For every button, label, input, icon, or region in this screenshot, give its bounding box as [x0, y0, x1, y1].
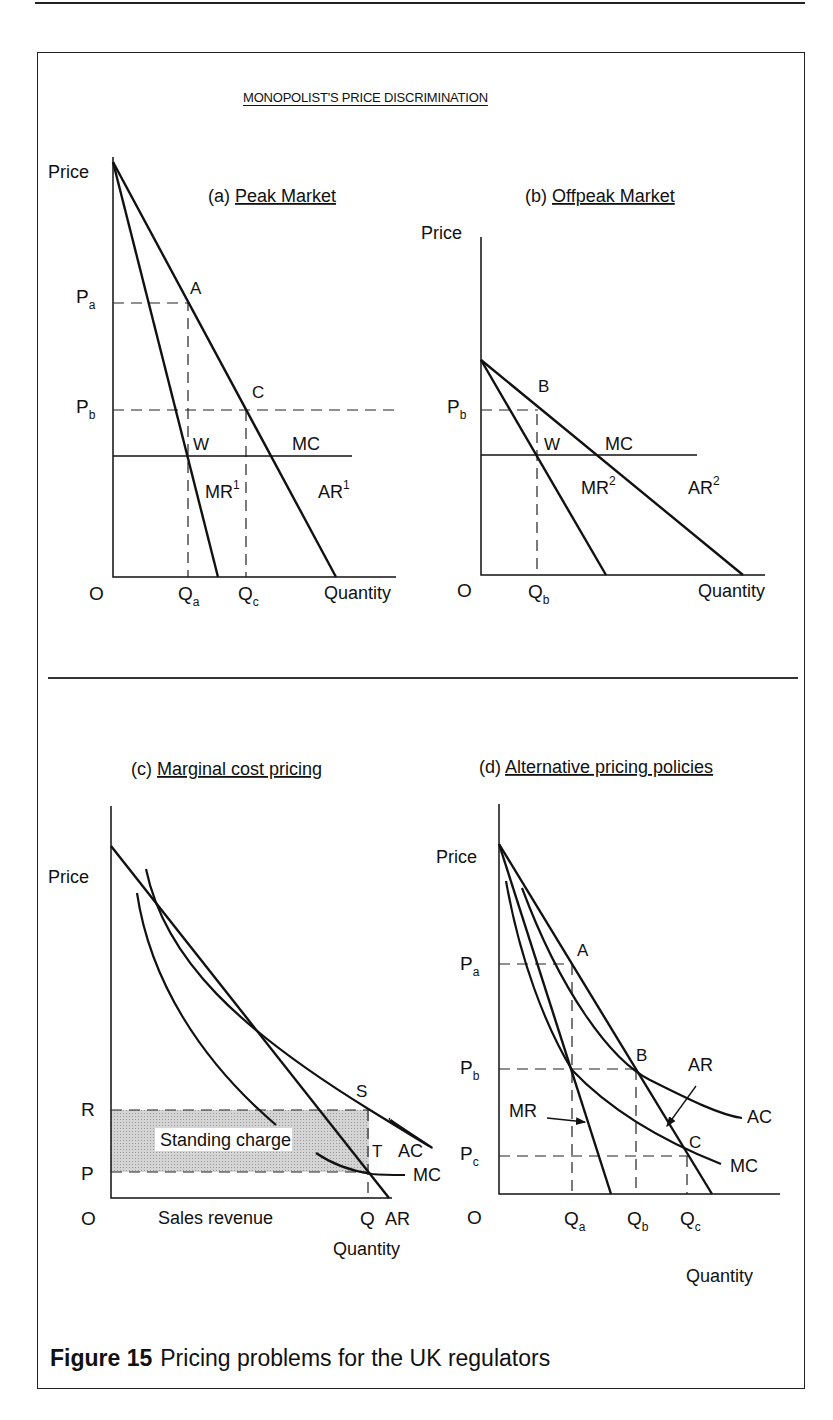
tick-label-sub: b — [460, 408, 467, 422]
curve-mr1 — [113, 162, 218, 577]
tick-label: Qb — [528, 581, 550, 607]
x-axis-label: Quantity — [324, 583, 391, 603]
point-label: A — [190, 279, 202, 298]
y-axis-label: Price — [436, 847, 477, 867]
tick-label: P — [81, 1163, 94, 1184]
series-label-mr2-sup: 2 — [609, 474, 616, 488]
charts-canvas: AR1MR1MCACWPaPbQaQc(a) Peak MarketPriceQ… — [0, 0, 833, 1420]
series-label-ac: AC — [747, 1107, 772, 1127]
tick-label: Qc — [680, 1208, 701, 1234]
panel-title-name: Marginal cost pricing — [157, 759, 322, 779]
series-label-mr1: MR1 — [205, 478, 240, 502]
dashed-guide — [113, 303, 188, 577]
panel-title-name: Offpeak Market — [552, 186, 675, 206]
axes — [113, 157, 396, 577]
area-label: Sales revenue — [158, 1208, 273, 1228]
panel-title: (d) Alternative pricing policies — [479, 757, 713, 777]
axes — [481, 237, 765, 575]
x-axis-label: Quantity — [333, 1239, 400, 1259]
panel-title-name: Alternative pricing policies — [505, 757, 713, 777]
x-axis-label: Quantity — [686, 1266, 753, 1286]
curve-ac — [146, 869, 432, 1148]
point-label: B — [538, 377, 549, 396]
figure-caption: Figure 15Pricing problems for the UK reg… — [50, 1345, 550, 1372]
origin-label: O — [89, 583, 104, 604]
chart-panel-d: ARMRACMCABCPaPbPcQaQbQc(d) Alternative p… — [436, 757, 780, 1286]
point-label: S — [356, 1082, 367, 1101]
tick-label: Pb — [76, 396, 96, 422]
chart-panel-b: AR2MR2MCBWPbQb(b) Offpeak MarketPriceQua… — [421, 186, 765, 607]
series-label-ar: AR — [385, 1209, 410, 1229]
point-label: T — [372, 1142, 382, 1161]
curve-mc — [506, 881, 721, 1164]
series-label-ar1: AR1 — [318, 478, 350, 502]
origin-label: O — [457, 580, 472, 601]
tick-label-sub: b — [642, 1220, 649, 1234]
series-label-mr2: MR2 — [581, 474, 616, 498]
tick-label-sub: a — [473, 965, 480, 979]
series-label-ar: AR — [688, 1055, 713, 1075]
tick-label-sub: b — [473, 1069, 480, 1083]
tick-label-sub: c — [473, 1155, 479, 1169]
chart-panel-c: ARACMCStanding chargeSales revenueSTRPQ(… — [48, 759, 441, 1259]
point-label: W — [193, 435, 209, 454]
series-label-mc: MC — [730, 1156, 758, 1176]
point-label: B — [636, 1046, 647, 1065]
tick-label-sub: a — [89, 298, 96, 312]
curve-ar1 — [113, 162, 336, 577]
tick-label: R — [81, 1099, 95, 1120]
series-label-ar2: AR2 — [688, 474, 720, 498]
tick-label: Qc — [238, 583, 259, 609]
caption-text: Pricing problems for the UK regulators — [160, 1345, 550, 1371]
tick-label-sub: a — [193, 595, 200, 609]
curve-ar — [499, 844, 712, 1194]
x-axis-label: Quantity — [698, 581, 765, 601]
y-axis-label: Price — [48, 867, 89, 887]
panel-title: (c) Marginal cost pricing — [131, 759, 322, 779]
point-label: C — [689, 1133, 701, 1152]
tick-label: Q — [360, 1208, 375, 1229]
tick-label: Qa — [178, 583, 200, 609]
tick-label: Pc — [460, 1143, 479, 1169]
series-label-mc: MC — [292, 434, 320, 454]
series-label-mr: MR — [509, 1101, 537, 1121]
tick-label-sub: c — [695, 1220, 701, 1234]
tick-label-sub: c — [253, 595, 259, 609]
series-label-ar1-sup: 1 — [343, 478, 350, 492]
origin-label: O — [467, 1207, 482, 1228]
panel-title: (b) Offpeak Market — [525, 186, 675, 206]
tick-label-sub: b — [543, 593, 550, 607]
series-label-mc: MC — [605, 434, 633, 454]
pointer-arrow — [547, 1118, 585, 1122]
y-axis-label: Price — [48, 162, 89, 182]
tick-label: Pa — [460, 953, 480, 979]
series-label-ar2-sup: 2 — [713, 474, 720, 488]
point-label: C — [252, 383, 264, 402]
tick-label-sub: b — [89, 408, 96, 422]
panel-title-name: Peak Market — [235, 186, 336, 206]
curve-mr — [499, 844, 611, 1194]
series-label-ac: AC — [398, 1141, 423, 1161]
axes — [499, 804, 780, 1194]
tick-label: Qa — [564, 1208, 586, 1234]
area-label: Standing charge — [160, 1130, 291, 1150]
tick-label: Qb — [627, 1208, 649, 1234]
curve-ac — [522, 888, 742, 1118]
panel-title: (a) Peak Market — [208, 186, 336, 206]
curve-ar2 — [481, 360, 743, 575]
series-label-mc: MC — [413, 1165, 441, 1185]
origin-label: O — [81, 1208, 96, 1229]
caption-label: Figure 15 — [50, 1345, 152, 1371]
tick-label: Pb — [447, 396, 467, 422]
pointer-arrow — [667, 1086, 696, 1126]
y-axis-label: Price — [421, 223, 462, 243]
point-label: A — [577, 941, 589, 960]
tick-label: Pb — [460, 1057, 480, 1083]
series-label-mr1-sup: 1 — [233, 478, 240, 492]
tick-label: Pa — [76, 286, 96, 312]
point-label: W — [544, 435, 560, 454]
chart-panel-a: AR1MR1MCACWPaPbQaQc(a) Peak MarketPriceQ… — [48, 157, 396, 609]
tick-label-sub: a — [579, 1220, 586, 1234]
